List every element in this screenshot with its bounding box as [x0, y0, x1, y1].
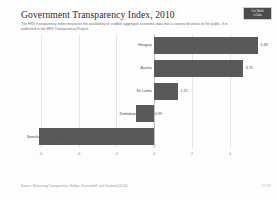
bar-category-label: Hungary: [138, 43, 152, 47]
bar[interactable]: [154, 37, 258, 54]
bar-row: Zimbabwe-0.99: [18, 105, 264, 122]
bar-category-label: Zimbabwe: [119, 112, 136, 116]
plot-area: Hungary5.48Austria4.70Sri Lanka1.25Zimba…: [18, 34, 264, 168]
bar-category-label: Austria: [141, 66, 152, 70]
bar-chart: Hungary5.48Austria4.70Sri Lanka1.25Zimba…: [0, 34, 277, 168]
bar-row: Somalia-6.08: [18, 128, 264, 145]
bar[interactable]: [154, 83, 178, 100]
x-axis-tick-label: -6: [39, 152, 42, 156]
logo-badge[interactable]: Our World in Data: [243, 7, 272, 20]
x-axis-tick-label: 2: [191, 152, 193, 156]
bar-value-label: 1.25: [180, 89, 187, 93]
bar-row: Austria4.70: [18, 60, 264, 77]
x-axis-tick-label: -4: [77, 152, 80, 156]
chart-page: Government Transparency Index, 2010 The …: [0, 0, 277, 200]
bar-row: Sri Lanka1.25: [18, 83, 264, 100]
source-note: Source: Measuring Transparency: Hollyer,…: [21, 184, 127, 188]
page-title: Government Transparency Index, 2010: [21, 9, 251, 20]
logo-line-2: in Data: [253, 14, 261, 17]
x-axis: -6-4-2024: [18, 152, 264, 162]
bar-category-label: Somalia: [27, 135, 40, 139]
bar-value-label: -6.08: [57, 135, 65, 139]
x-axis-tick-label: 0: [153, 152, 155, 156]
x-axis-tick-label: -2: [115, 152, 118, 156]
license-note: CC BY: [262, 184, 271, 188]
page-subtitle: The HRV transparency index measures the …: [21, 22, 233, 31]
x-axis-tick-label: 4: [229, 152, 231, 156]
bar-category-label: Sri Lanka: [137, 89, 152, 93]
bar[interactable]: [39, 128, 154, 145]
bar-value-label: 5.48: [260, 43, 267, 47]
bar-value-label: 4.70: [246, 66, 253, 70]
bar[interactable]: [136, 105, 155, 122]
header: Government Transparency Index, 2010 The …: [21, 9, 251, 31]
bar[interactable]: [154, 60, 243, 77]
bar-value-label: -0.99: [154, 112, 162, 116]
bar-row: Hungary5.48: [18, 37, 264, 54]
